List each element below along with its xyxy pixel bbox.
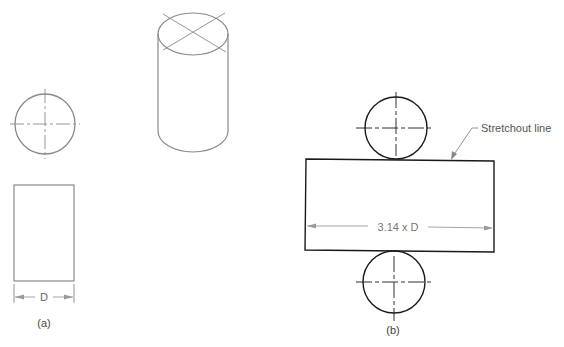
stretchout-callout-label: Stretchout line <box>481 122 551 134</box>
part-a-orthographic-views: D (a) <box>10 89 80 329</box>
part-a-front-view-rect <box>14 185 74 281</box>
part-a-top-view-circle <box>10 89 80 159</box>
part-b-bottom-circle <box>356 251 432 321</box>
stretchout-diagram: D (a) 3.14 x D <box>0 0 564 347</box>
part-b-development: 3.14 x D Stretchout line (b) <box>305 92 551 336</box>
part-b-stretchout-rect <box>305 159 494 252</box>
part-b-dimension-label: 3.14 x D <box>378 221 419 233</box>
stretchout-leader <box>451 128 478 160</box>
part-b-top-circle <box>356 92 433 159</box>
part-b-caption: (b) <box>386 324 399 336</box>
part-a-dimension-label: D <box>40 291 48 303</box>
part-a-caption: (a) <box>37 317 50 329</box>
pictorial-cylinder <box>158 13 228 152</box>
